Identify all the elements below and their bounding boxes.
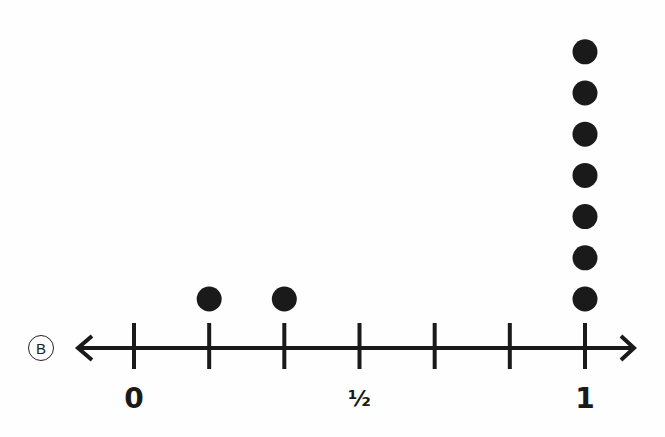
data-dot	[573, 122, 598, 147]
data-dot	[573, 39, 598, 64]
tick-label: 0	[124, 382, 143, 415]
data-dot	[272, 287, 297, 312]
tick-label: 1	[575, 382, 594, 415]
data-dot	[573, 81, 598, 106]
data-dot	[573, 287, 598, 312]
data-dot	[573, 245, 598, 270]
dot-plot	[0, 0, 665, 437]
data-dot	[197, 287, 222, 312]
option-b-label: B	[28, 335, 54, 361]
tick-label: ½	[348, 386, 371, 411]
data-dot	[573, 163, 598, 188]
data-dot	[573, 204, 598, 229]
